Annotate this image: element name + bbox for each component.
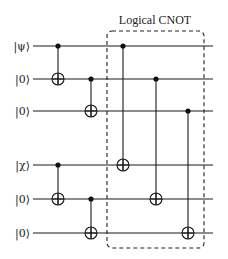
control-dot-icon	[88, 196, 93, 201]
logical-cnot-title: Logical CNOT	[119, 13, 192, 27]
qubit-label: |χ⟩	[15, 159, 30, 173]
cnot-gate	[182, 108, 194, 239]
control-dot-icon	[120, 43, 125, 48]
control-dot-icon	[55, 162, 60, 167]
qubit-label: |0⟩	[15, 227, 30, 241]
control-dot-icon	[185, 108, 190, 113]
cnot-gate	[85, 76, 97, 117]
control-dot-icon	[55, 43, 60, 48]
cnot-gate	[52, 162, 64, 205]
cnot-gate	[117, 43, 129, 171]
quantum-circuit-diagram: Logical CNOT |ψ⟩|0⟩|0⟩|χ⟩|0⟩|0⟩	[0, 0, 228, 259]
cnot-gate	[85, 196, 97, 239]
qubit-label: |0⟩	[15, 105, 30, 119]
qubit-label: |ψ⟩	[13, 40, 30, 54]
control-dot-icon	[88, 76, 93, 81]
qubit-label: |0⟩	[15, 193, 30, 207]
cnot-gate	[52, 43, 64, 85]
cnot-gates	[52, 43, 194, 239]
control-dot-icon	[153, 76, 158, 81]
qubit-label: |0⟩	[15, 73, 30, 87]
cnot-gate	[150, 76, 162, 205]
qubit-labels: |ψ⟩|0⟩|0⟩|χ⟩|0⟩|0⟩	[13, 40, 30, 241]
